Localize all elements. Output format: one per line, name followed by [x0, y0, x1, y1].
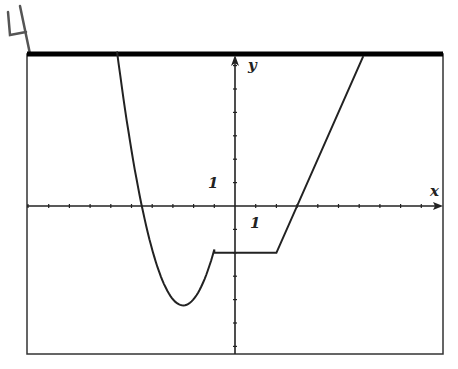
function-curve [117, 52, 363, 306]
axes [27, 55, 443, 354]
y-unit-label: 1 [208, 174, 218, 192]
handwritten-number-4 [8, 6, 30, 54]
function-graph: y x 1 1 [0, 0, 458, 369]
x-axis-label: x [429, 182, 440, 200]
y-axis-label: y [247, 56, 258, 74]
x-unit-label: 1 [250, 214, 260, 232]
